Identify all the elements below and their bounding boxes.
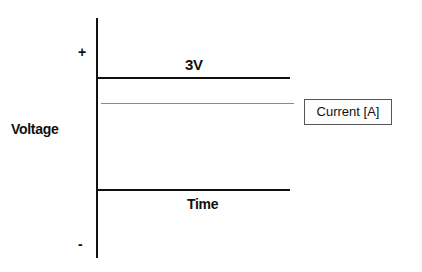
positive-marker: + xyxy=(78,44,86,60)
voltage-axis-label: Voltage xyxy=(11,121,58,137)
current-legend-box: Current [A] xyxy=(304,99,392,125)
current-line xyxy=(101,103,294,104)
voltage-line-label: 3V xyxy=(185,56,203,73)
voltage-line-3v xyxy=(97,77,290,79)
time-axis-label: Time xyxy=(187,196,218,212)
voltage-axis xyxy=(96,18,98,258)
time-axis xyxy=(97,189,290,191)
negative-marker: - xyxy=(78,236,83,252)
